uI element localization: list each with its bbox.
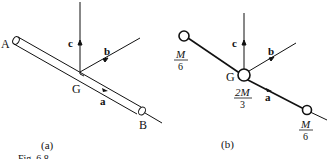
label-center-g: G [72,82,81,96]
panel-b: M 6 G 2M 3 c b a M 6 (b) [174,13,327,151]
mass-center-den: 3 [240,99,245,110]
mass-left [179,31,189,41]
label-end-b: B [139,118,147,132]
rod-right [246,79,306,110]
axis-c [78,2,82,70]
axis-c-b [242,13,246,74]
mass-right-den: 6 [303,131,308,142]
label-axis-a: a [100,95,106,107]
mass-left-num: M [175,48,186,60]
axis-a [102,88,108,92]
label-axis-c: c [68,37,73,49]
figure-canvas: A B G c b a (a) Fig. 6.8 M 6 G 2M [0,0,333,159]
panel-b-label: (b) [221,138,234,151]
mass-right [303,106,312,115]
label-axis-b-b: b [268,45,274,57]
mass-center [238,69,250,81]
mass-right-num: M [300,118,311,130]
label-axis-a-b: a [265,91,271,103]
panel-a-label: (a) [41,139,54,152]
label-axis-b: b [104,45,110,57]
label-axis-c-b: c [232,37,237,49]
mass-center-num: 2M [235,86,251,98]
mass-left-den: 6 [178,61,183,72]
label-end-a: A [1,37,10,51]
label-center-g-b: G [226,70,235,84]
figure-caption: Fig. 6.8 [18,153,49,159]
rod [11,36,162,123]
panel-a: A B G c b a (a) Fig. 6.8 [1,2,162,159]
